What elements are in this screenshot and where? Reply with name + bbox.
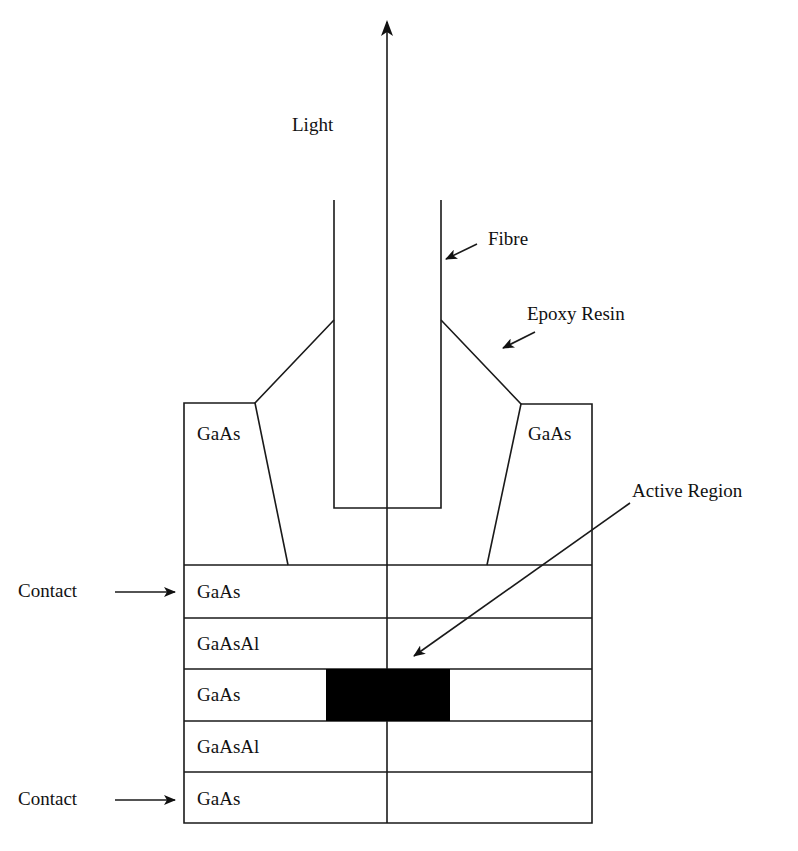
contact-top-label: Contact xyxy=(18,580,78,601)
epoxy-pointer-arrow xyxy=(503,332,535,348)
layer-2-label: GaAsAl xyxy=(197,633,259,654)
layer-4-label: GaAsAl xyxy=(197,736,259,757)
active-region-label: Active Region xyxy=(632,480,743,501)
layer-1-label: GaAs xyxy=(197,581,240,602)
gaas-right-label: GaAs xyxy=(528,423,571,444)
epoxy-label: Epoxy Resin xyxy=(527,303,625,324)
fibre-pointer-arrow xyxy=(446,244,477,259)
substrate xyxy=(184,403,592,823)
epoxy-resin xyxy=(255,320,521,565)
led-fibre-diagram: Light Fibre Epoxy Resin GaAs GaAs GaAs G… xyxy=(0,0,798,851)
light-label: Light xyxy=(292,114,334,135)
active-region-pointer-arrow xyxy=(414,503,630,656)
contact-bottom-label: Contact xyxy=(18,788,78,809)
gaas-left-label: GaAs xyxy=(197,423,240,444)
active-region-block xyxy=(326,669,450,721)
layer-3-label: GaAs xyxy=(197,684,240,705)
fibre-label: Fibre xyxy=(488,228,528,249)
layer-5-label: GaAs xyxy=(197,788,240,809)
